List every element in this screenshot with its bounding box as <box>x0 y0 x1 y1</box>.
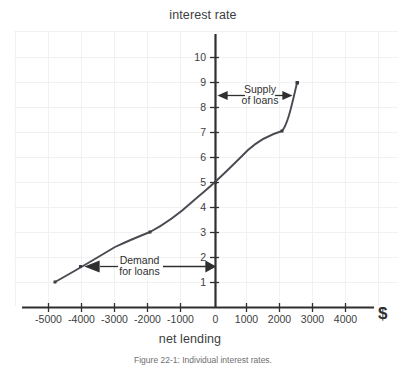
y-tick-label-6: 6 <box>182 151 206 163</box>
y-tick-label-1: 1 <box>182 276 206 288</box>
annotation-demand-line2: for loans <box>113 266 166 277</box>
x-tick-label-4000: 4000 <box>321 313 370 325</box>
grid-vertical <box>16 31 379 306</box>
y-tick-label-7: 7 <box>182 126 206 138</box>
y-tick-label-10: 10 <box>182 51 206 63</box>
y-tick-label-2: 2 <box>182 251 206 263</box>
y-tick-label-5: 5 <box>182 176 206 188</box>
annotation-demand: Demand for loans <box>113 255 166 277</box>
y-tick-label-8: 8 <box>182 101 206 113</box>
figure-caption: Figure 22-1: Individual interest rates. <box>0 355 406 365</box>
x-axis-title: net lending <box>0 332 380 346</box>
annotation-supply-line2: of loans <box>241 95 279 106</box>
y-tick-label-3: 3 <box>182 226 206 238</box>
currency-symbol: $ <box>378 304 387 324</box>
y-tick-label-9: 9 <box>182 76 206 88</box>
grid-horizontal <box>14 32 398 283</box>
annotation-supply: Supply of loans <box>241 84 279 106</box>
y-tick-label-4: 4 <box>182 201 206 213</box>
